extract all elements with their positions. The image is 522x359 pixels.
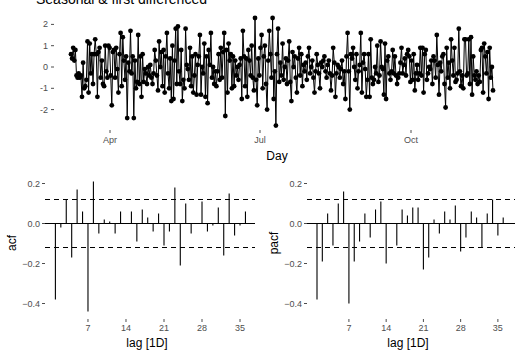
ts-point — [270, 16, 275, 21]
ts-point — [421, 90, 426, 95]
ts-y-tick-label: 2 — [43, 19, 48, 29]
ts-point — [167, 86, 172, 91]
ts-point — [172, 58, 177, 63]
ts-point — [471, 54, 476, 59]
ts-point — [333, 94, 338, 99]
acf-x-tick-label: 14 — [121, 323, 131, 333]
ts-point — [477, 80, 482, 85]
ts-point — [322, 54, 327, 59]
ts-point — [237, 63, 242, 68]
ts-point — [247, 58, 252, 63]
ts-point — [83, 84, 88, 89]
ts-point — [323, 69, 328, 74]
ts-point — [317, 71, 322, 76]
ts-point — [100, 58, 105, 63]
ts-point — [450, 58, 455, 63]
ts-point — [468, 82, 473, 87]
ts-point — [182, 86, 187, 91]
ts-point — [491, 88, 496, 93]
ts-point — [356, 69, 361, 74]
ts-point — [306, 54, 311, 59]
ts-point — [165, 31, 170, 36]
ts-point — [346, 69, 351, 74]
ts-point — [373, 65, 378, 70]
ts-point — [385, 58, 390, 63]
ts-point — [72, 58, 77, 63]
ts-point — [108, 73, 113, 78]
ts-point — [442, 82, 447, 87]
ts-point — [149, 75, 154, 80]
ts-point — [403, 56, 408, 61]
ts-point — [214, 84, 219, 89]
ts-point — [218, 45, 223, 50]
ts-point — [337, 75, 342, 80]
ts-point — [145, 82, 150, 87]
ts-point — [181, 77, 186, 82]
ts-point — [367, 94, 372, 99]
ts-point — [177, 69, 182, 74]
ts-point — [152, 48, 157, 53]
ts-point — [125, 116, 130, 121]
ts-point — [282, 65, 287, 70]
ts-point — [375, 43, 380, 48]
ts-point — [460, 73, 465, 78]
ts-point — [202, 41, 207, 46]
ts-point — [404, 73, 409, 78]
ts-point — [458, 69, 463, 74]
ts-point — [222, 31, 227, 36]
ts-point — [416, 77, 421, 82]
ts-point — [441, 52, 446, 57]
ts-point — [130, 54, 135, 59]
ts-point — [433, 75, 438, 80]
ts-point — [451, 73, 456, 78]
ts-point — [461, 86, 466, 91]
ts-point — [422, 52, 427, 57]
ts-point — [232, 84, 237, 89]
pacf-y-axis: 0.20.0−0.2−0.4 — [284, 179, 307, 309]
ts-point — [249, 43, 254, 48]
ts-point — [376, 80, 381, 85]
ts-point — [377, 73, 382, 78]
ts-point — [227, 58, 232, 63]
acf-y-tick-label: −0.4 — [22, 299, 40, 309]
ts-point — [274, 123, 279, 128]
ts-point — [236, 77, 241, 82]
ts-point — [233, 58, 238, 63]
ts-point — [215, 69, 220, 74]
ts-point — [325, 63, 330, 68]
ts-point — [266, 58, 271, 63]
ts-point — [136, 33, 141, 38]
ts-point — [362, 52, 367, 57]
ts-point — [107, 45, 112, 50]
ts-point — [170, 43, 175, 48]
ts-point — [171, 97, 176, 102]
ts-point — [289, 99, 294, 104]
ts-y-tick-label: 1 — [43, 41, 48, 51]
ts-point — [245, 94, 250, 99]
ts-point — [86, 90, 91, 95]
ts-point — [73, 48, 78, 53]
ts-point — [431, 54, 436, 59]
ts-point — [407, 54, 412, 59]
ts-point — [98, 75, 103, 80]
ts-point — [194, 92, 199, 97]
ts-point — [454, 77, 459, 82]
acf-bars — [45, 182, 255, 312]
ts-point — [300, 84, 305, 89]
ts-point — [488, 75, 493, 80]
ts-point — [133, 58, 138, 63]
ts-point — [358, 31, 363, 36]
ts-point — [113, 75, 118, 80]
ts-point — [406, 48, 411, 53]
ts-point — [199, 92, 204, 97]
ts-point — [354, 52, 359, 57]
ts-point — [470, 92, 475, 97]
ts-point — [445, 75, 450, 80]
ts-point — [311, 75, 316, 80]
ts-point — [419, 73, 424, 78]
ts-point — [378, 39, 383, 44]
ts-point — [176, 24, 181, 29]
ts-point — [231, 54, 236, 59]
ts-point — [79, 73, 84, 78]
ts-point — [365, 77, 370, 82]
